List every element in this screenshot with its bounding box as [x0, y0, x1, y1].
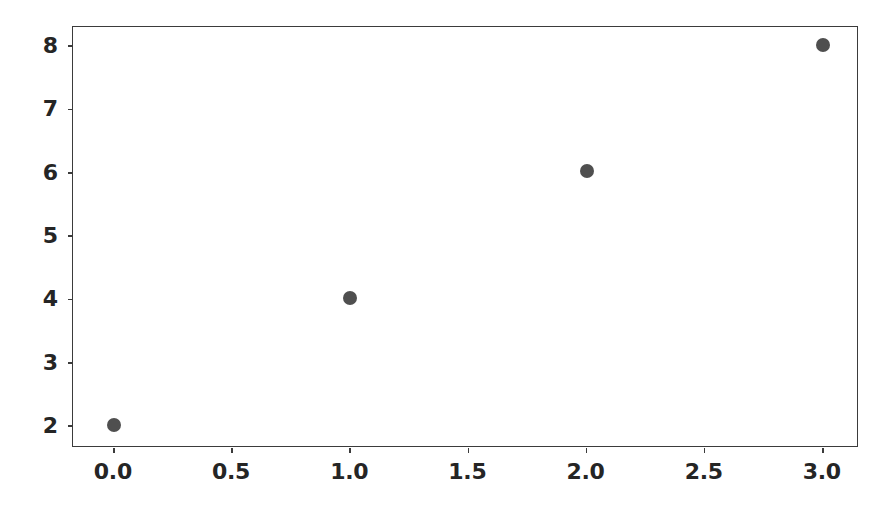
x-tick-label: 0.0 — [94, 459, 132, 484]
data-point — [816, 38, 830, 52]
y-tick-mark — [68, 425, 73, 427]
data-point — [343, 291, 357, 305]
x-tick-mark — [468, 448, 470, 453]
x-tick-label: 1.5 — [448, 459, 486, 484]
y-tick-mark — [68, 172, 73, 174]
x-tick-label: 0.5 — [212, 459, 250, 484]
x-tick-mark — [704, 448, 706, 453]
y-tick-label: 2 — [26, 413, 58, 438]
x-tick-mark — [231, 448, 233, 453]
y-tick-label: 6 — [26, 159, 58, 184]
x-tick-label: 1.0 — [330, 459, 368, 484]
x-tick-mark — [113, 448, 115, 453]
x-tick-label: 2.5 — [685, 459, 723, 484]
x-tick-label: 3.0 — [803, 459, 841, 484]
x-tick-mark — [586, 448, 588, 453]
data-point — [107, 418, 121, 432]
y-tick-label: 5 — [26, 223, 58, 248]
y-tick-label: 3 — [26, 349, 58, 374]
y-tick-mark — [68, 235, 73, 237]
x-tick-label: 2.0 — [566, 459, 604, 484]
y-tick-mark — [68, 109, 73, 111]
y-tick-label: 7 — [26, 96, 58, 121]
x-tick-mark — [349, 448, 351, 453]
y-tick-label: 8 — [26, 33, 58, 58]
data-points-layer — [73, 27, 857, 446]
x-tick-mark — [822, 448, 824, 453]
plot-axes-frame — [72, 26, 858, 447]
data-point — [580, 164, 594, 178]
y-tick-mark — [68, 299, 73, 301]
y-tick-label: 4 — [26, 286, 58, 311]
scatter-plot-figure: 0.00.51.01.52.02.53.0 2345678 — [0, 0, 894, 511]
y-tick-mark — [68, 45, 73, 47]
y-tick-mark — [68, 362, 73, 364]
